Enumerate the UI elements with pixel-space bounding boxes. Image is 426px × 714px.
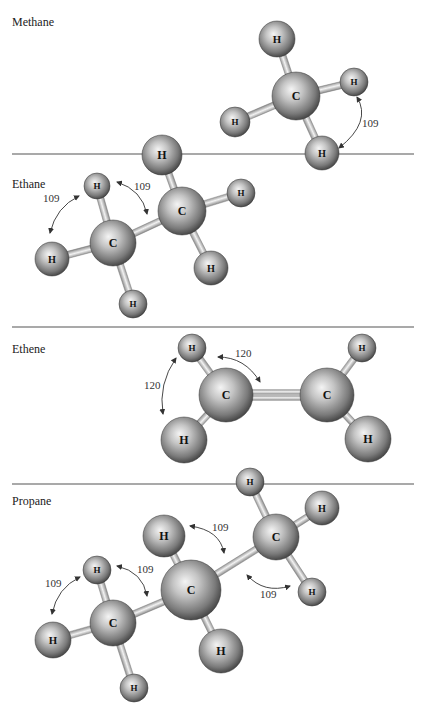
atom-symbol: H: [48, 254, 56, 265]
atom-symbol: H: [350, 77, 357, 87]
atom-symbol: H: [318, 503, 326, 514]
carbon-atom: C: [90, 600, 136, 646]
hydrogen-atom: H: [178, 334, 206, 362]
angle-value: 120: [235, 347, 252, 359]
atom-symbol: H: [49, 634, 58, 646]
angle-value: 109: [134, 180, 151, 192]
molecule-propane: PropaneHHCHHHCCHHH109109109109: [12, 468, 339, 702]
hydrogen-atom: H: [348, 334, 376, 362]
hydrogen-atom: H: [199, 629, 243, 673]
carbon-atom: C: [300, 368, 354, 422]
hydrogen-atom: H: [236, 468, 264, 496]
hydrogen-atom: H: [194, 251, 228, 285]
angle-value: 109: [260, 588, 277, 600]
carbon-atom: C: [161, 560, 221, 620]
atom-symbol: H: [129, 299, 136, 309]
atom-symbol: H: [231, 117, 238, 127]
angle-value: 109: [43, 192, 60, 204]
carbon-atom: C: [90, 220, 136, 266]
bond-angle-annotation: 109: [339, 97, 379, 148]
ethane-label: Ethane: [12, 177, 45, 191]
double-headed-arrow-icon: [247, 575, 290, 588]
hydrogen-atom: H: [120, 674, 148, 702]
hydrogen-atom: H: [345, 416, 391, 462]
propane-label: Propane: [12, 494, 51, 508]
methane-bond-angles: 109: [339, 97, 379, 148]
carbon-atom: C: [253, 514, 299, 560]
hydrogen-atom: H: [142, 135, 182, 175]
angle-value: 109: [137, 563, 154, 575]
hydrogen-atom: H: [227, 179, 255, 207]
atom-symbol: C: [109, 236, 118, 250]
hydrogen-atom: H: [220, 107, 250, 137]
atom-symbol: H: [93, 181, 100, 191]
atom-symbol: H: [237, 188, 244, 198]
propane-atoms: HHCHHHCCHHH: [35, 468, 339, 702]
atom-symbol: C: [272, 530, 281, 544]
angle-value: 109: [362, 117, 379, 129]
atom-symbol: H: [130, 683, 137, 693]
atom-symbol: C: [187, 583, 196, 597]
atom-symbol: H: [246, 477, 253, 487]
double-headed-arrow-icon: [162, 358, 176, 414]
hydrogen-atom: H: [119, 290, 147, 318]
hydrogen-atom: H: [340, 68, 368, 96]
double-headed-arrow-icon: [339, 97, 362, 148]
angle-value: 109: [45, 577, 62, 589]
hydrogen-atom: H: [143, 515, 185, 557]
angle-value: 109: [212, 521, 229, 533]
atom-symbol: C: [292, 89, 301, 103]
angle-value: 120: [144, 379, 161, 391]
molecule-ethane: EthaneHHHCCHHH109109: [12, 135, 255, 318]
atom-symbol: H: [157, 148, 167, 162]
hydrogen-atom: H: [259, 21, 295, 57]
molecule-methane: MethaneHCHHH109: [12, 15, 379, 170]
hydrogen-atom: H: [305, 136, 339, 170]
hydrogen-atom: H: [305, 491, 339, 525]
atom-symbol: H: [207, 263, 215, 274]
molecule-ethene: EtheneHHCCHH120120: [12, 334, 391, 463]
hydrogen-atom: H: [298, 578, 326, 606]
bond-angle-annotation: 109: [43, 192, 79, 233]
bond-angle-annotation: 109: [247, 575, 290, 600]
atom-symbol: H: [273, 33, 282, 45]
bond-angle-annotation: 109: [45, 577, 80, 614]
hydrogen-atom: H: [84, 173, 110, 199]
methane-atoms: HCHHH: [220, 21, 368, 170]
atom-symbol: H: [363, 432, 373, 446]
molecule-diagram: MethaneHCHHH109EthaneHHHCCHHH109109Ethen…: [0, 0, 426, 714]
hydrogen-atom: H: [35, 622, 71, 658]
atom-symbol: H: [179, 433, 189, 447]
bond-angle-annotation: 120: [144, 358, 176, 414]
atom-symbol: H: [216, 644, 226, 658]
atom-symbol: H: [318, 148, 326, 159]
atom-symbol: H: [358, 343, 365, 353]
atom-symbol: C: [222, 388, 231, 402]
bond-angle-annotation: 109: [190, 521, 229, 553]
atom-symbol: H: [159, 529, 169, 543]
methane-label: Methane: [12, 15, 54, 29]
carbon-atom: C: [272, 72, 320, 120]
atom-symbol: C: [109, 616, 118, 630]
carbon-atom: C: [199, 368, 253, 422]
atom-symbol: C: [323, 388, 332, 402]
molecule-sections: MethaneHCHHH109EthaneHHHCCHHH109109Ethen…: [12, 15, 391, 702]
bond-angle-annotation: 109: [117, 563, 154, 596]
hydrogen-atom: H: [83, 556, 111, 584]
atom-symbol: H: [308, 587, 315, 597]
carbon-atom: C: [158, 187, 206, 235]
ethene-label: Ethene: [12, 342, 45, 356]
atom-symbol: H: [188, 343, 195, 353]
atom-symbol: C: [178, 204, 187, 218]
hydrogen-atom: H: [161, 417, 207, 463]
atom-symbol: H: [93, 565, 100, 575]
bond-angle-annotation: 109: [117, 180, 151, 214]
hydrogen-atom: H: [35, 242, 69, 276]
